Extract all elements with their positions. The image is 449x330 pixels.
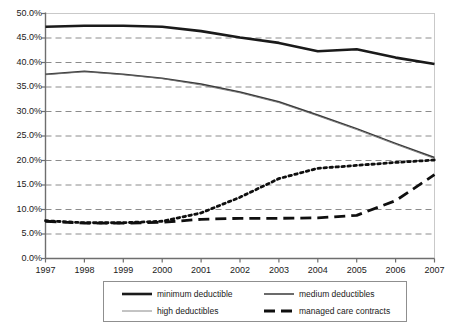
legend-item-managed-care-contracts[interactable]: managed care contracts — [264, 306, 390, 316]
y-tick-label: 10.0% — [0, 205, 42, 214]
axis-ticks — [42, 14, 435, 263]
y-tick-label: 50.0% — [0, 9, 42, 18]
y-tick-label: 15.0% — [0, 180, 42, 189]
x-tick-label: 2006 — [376, 266, 416, 275]
legend-label: medium deductibles — [299, 289, 375, 299]
x-tick-label: 2007 — [415, 266, 449, 275]
x-tick-label: 2003 — [259, 266, 299, 275]
legend-swatch-solid-thin — [264, 289, 294, 299]
y-axis-tick-labels: 0.0%5.0%10.0%15.0%20.0%25.0%30.0%35.0%40… — [0, 0, 42, 330]
legend-swatch-solid-hairline — [122, 306, 152, 316]
y-tick-label: 5.0% — [0, 229, 42, 238]
x-tick-label: 1998 — [64, 266, 104, 275]
y-tick-label: 45.0% — [0, 33, 42, 42]
chart-legend: minimum deductiblemedium deductibleshigh… — [103, 281, 407, 322]
x-tick-label: 2004 — [298, 266, 338, 275]
series-line-minimum-deductible — [46, 26, 435, 64]
gridlines — [46, 14, 435, 235]
y-tick-label: 0.0% — [0, 254, 42, 263]
legend-item-medium-deductibles[interactable]: medium deductibles — [264, 289, 375, 299]
series-line-high-deductibles — [46, 72, 435, 159]
series-line-managed-care-contracts — [46, 175, 435, 224]
legend-item-high-deductibles[interactable]: high deductibles — [122, 306, 218, 316]
series-line-medium-deductibles — [46, 71, 435, 157]
x-tick-label: 2002 — [220, 266, 260, 275]
x-tick-label: 2000 — [142, 266, 182, 275]
y-tick-label: 30.0% — [0, 107, 42, 116]
legend-swatch-solid-thick — [122, 289, 152, 299]
data-series-layer — [46, 26, 435, 223]
legend-item-minimum-deductible[interactable]: minimum deductible — [122, 289, 233, 299]
y-tick-label: 35.0% — [0, 82, 42, 91]
y-tick-label: 20.0% — [0, 156, 42, 165]
legend-swatch-dashed-thick — [264, 306, 294, 316]
x-tick-label: 1999 — [103, 266, 143, 275]
x-tick-label: 2005 — [337, 266, 377, 275]
series-line-dotted-series — [46, 160, 435, 223]
x-tick-label: 1997 — [26, 266, 66, 275]
legend-label: minimum deductible — [157, 289, 233, 299]
x-tick-label: 2001 — [181, 266, 221, 275]
y-tick-label: 25.0% — [0, 131, 42, 140]
legend-label: managed care contracts — [299, 306, 390, 316]
y-tick-label: 40.0% — [0, 58, 42, 67]
legend-label: high deductibles — [157, 306, 218, 316]
